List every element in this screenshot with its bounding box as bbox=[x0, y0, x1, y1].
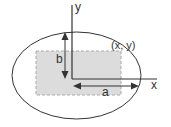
x-axis-label: x bbox=[151, 78, 157, 92]
y-axis-label: y bbox=[75, 0, 81, 14]
semi-minor-label: b bbox=[56, 52, 63, 66]
ellipse-diagram: y x b a (x, y) bbox=[0, 0, 171, 127]
semi-major-label: a bbox=[102, 85, 109, 99]
point-label: (x, y) bbox=[111, 39, 135, 51]
